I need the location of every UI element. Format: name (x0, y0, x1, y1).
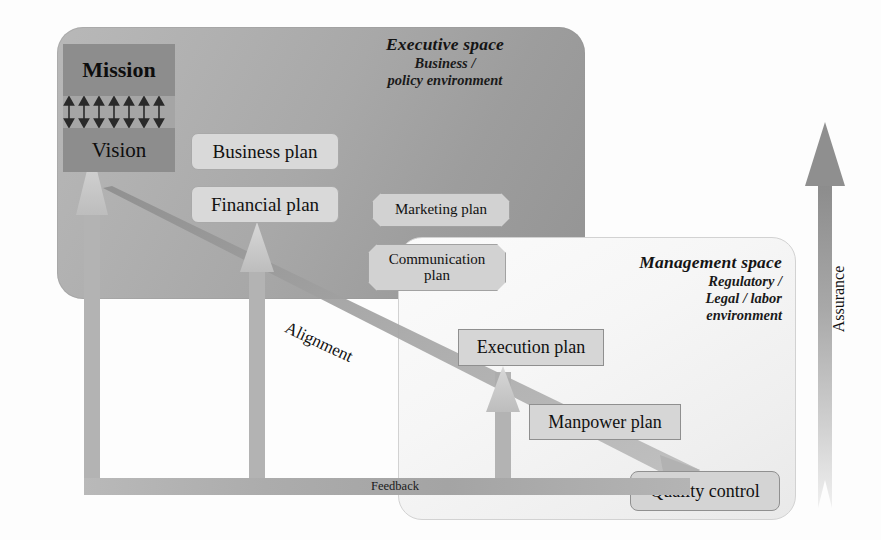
management-space-subtitle-line3: environment (564, 307, 782, 324)
communication-plan-box[interactable]: Communication plan (368, 244, 506, 291)
executive-space-subtitle-line2: policy environment (330, 72, 560, 89)
marketing-plan-box[interactable]: Marketing plan (372, 193, 510, 227)
financial-plan-box[interactable]: Financial plan (191, 186, 339, 223)
management-space-subtitle-line1: Regulatory / (564, 273, 782, 290)
manpower-plan-box[interactable]: Manpower plan (529, 404, 681, 440)
management-space-title: Management space (564, 252, 782, 273)
executive-space-caption: Executive space Business / policy enviro… (330, 34, 560, 89)
diagram-canvas: Executive space Business / policy enviro… (0, 0, 881, 540)
feedback-label: Feedback (340, 478, 450, 495)
mission-box[interactable]: Mission (63, 44, 175, 96)
communication-plan-line1: Communication (389, 252, 486, 268)
mission-vision-connector (63, 96, 175, 128)
double-arrow-up-down-icon (63, 96, 175, 128)
management-space-caption: Management space Regulatory / Legal / la… (564, 252, 782, 324)
vision-box[interactable]: Vision (63, 128, 175, 172)
communication-plan-line2: plan (389, 268, 486, 284)
business-plan-box[interactable]: Business plan (191, 133, 339, 170)
feedback-riser-left (84, 205, 100, 480)
executive-space-subtitle-line1: Business / (330, 55, 560, 72)
feedback-riser-right (495, 372, 511, 480)
executive-space-title: Executive space (330, 34, 560, 55)
management-space-subtitle-line2: Legal / labor (564, 290, 782, 307)
execution-plan-box[interactable]: Execution plan (458, 329, 604, 366)
assurance-label: Assurance (830, 266, 848, 333)
feedback-riser-middle (249, 260, 265, 480)
alignment-label: Alignment (282, 318, 356, 367)
